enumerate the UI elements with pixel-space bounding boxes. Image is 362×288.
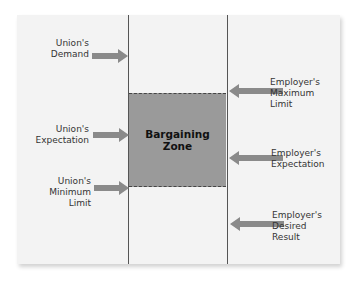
bargaining-zone-label: Bargaining Zone bbox=[145, 128, 210, 152]
arrow-right-icon bbox=[94, 181, 129, 195]
arrow-right-icon bbox=[92, 49, 128, 63]
employer-boundary-line bbox=[227, 15, 228, 264]
union-expectation-label: Union's Expectation bbox=[36, 124, 90, 146]
employer-desired-result-label: Employer's Desired Result bbox=[272, 210, 322, 243]
union-demand-label: Union's Demand bbox=[51, 38, 89, 60]
employer-maximum-limit-label: Employer's Maximum Limit bbox=[270, 77, 320, 110]
bargaining-zone: Bargaining Zone bbox=[129, 93, 226, 187]
employer-expectation-label: Employer's Expectation bbox=[271, 148, 325, 170]
arrow-right-icon bbox=[93, 128, 129, 142]
union-minimum-limit-label: Union's Minimum Limit bbox=[49, 176, 91, 209]
